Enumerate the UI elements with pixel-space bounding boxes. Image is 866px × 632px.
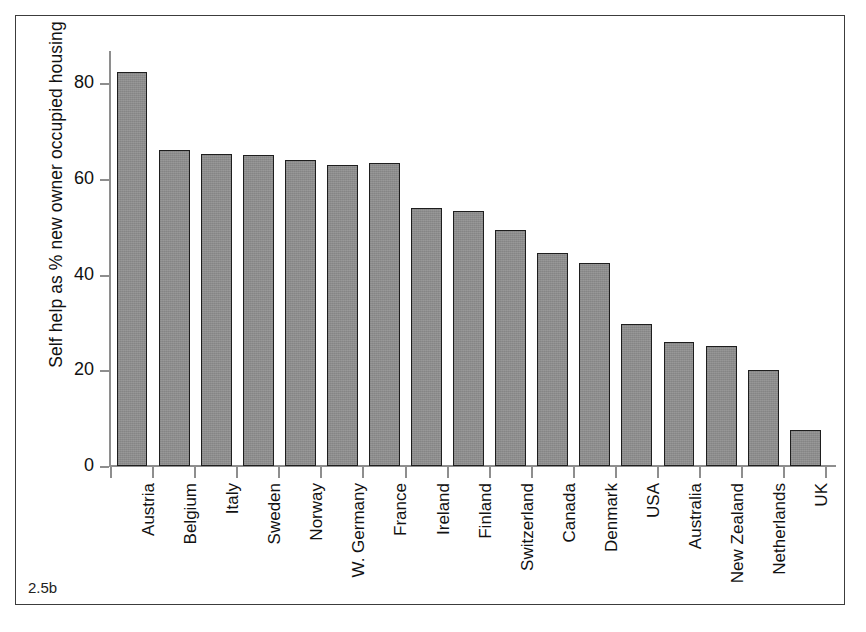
y-axis-tick: 60: [100, 179, 109, 181]
y-axis-tick-label: 0: [84, 455, 94, 476]
bar: [621, 324, 652, 466]
bar: [117, 72, 148, 466]
bar: [664, 342, 695, 466]
x-axis-tick-label: France: [391, 483, 411, 536]
x-axis-tick-label: UK: [812, 483, 832, 507]
bar: [369, 163, 400, 466]
y-axis-tick-label: 60: [74, 168, 94, 189]
x-axis-tick-label: Sweden: [265, 483, 285, 544]
x-axis-tick-label: Canada: [560, 483, 580, 543]
x-axis-tick: [362, 467, 364, 478]
x-axis-tick-label: Denmark: [602, 483, 622, 552]
x-axis-tick-label: Norway: [307, 483, 327, 541]
x-axis-tick: [405, 467, 407, 478]
y-axis-tick-label: 80: [74, 72, 94, 93]
bar: [495, 230, 526, 466]
bar: [790, 430, 821, 466]
figure-caption: 2.5b: [16, 573, 67, 604]
x-axis-tick-label: Italy: [223, 483, 243, 514]
y-axis-line: [109, 51, 111, 467]
figure-frame: Self help as % new owner occupied housin…: [15, 15, 845, 605]
y-axis-tick: 80: [100, 83, 109, 85]
bar: [579, 263, 610, 466]
x-axis-tick: [573, 467, 575, 478]
bar: [159, 150, 190, 466]
x-axis-tick: [531, 467, 533, 478]
x-axis-tick: [152, 467, 154, 478]
bar: [201, 154, 232, 466]
x-axis-tick: [657, 467, 659, 478]
x-axis-tick: [489, 467, 491, 478]
x-axis-tick: [320, 467, 322, 478]
x-axis-tick-label: Belgium: [181, 483, 201, 544]
y-axis-tick: 20: [100, 370, 109, 372]
x-axis-tick: [194, 467, 196, 478]
bar: [411, 208, 442, 466]
bar: [537, 253, 568, 466]
bar: [453, 211, 484, 466]
bar: [243, 155, 274, 466]
plot-area: 020406080 AustriaBelgiumItalySwedenNorwa…: [109, 51, 836, 467]
x-axis-tick: [278, 467, 280, 478]
x-axis-tick: [783, 467, 785, 478]
x-axis-tick-label: Austria: [139, 483, 159, 536]
x-axis-tick-label: W. Germany: [349, 483, 369, 577]
x-axis-tick: [699, 467, 701, 478]
x-axis-tick-label: Switzerland: [518, 483, 538, 571]
x-axis-tick-label: Australia: [686, 483, 706, 549]
bar: [748, 370, 779, 466]
y-axis-tick: 0: [100, 466, 109, 468]
y-axis-tick-label: 40: [74, 264, 94, 285]
x-axis-tick: [447, 467, 449, 478]
x-axis-tick: [110, 467, 112, 478]
x-axis-tick-label: Netherlands: [770, 483, 790, 575]
bar: [706, 346, 737, 466]
y-axis-tick: 40: [100, 275, 109, 277]
y-axis-title: Self help as % new owner occupied housin…: [46, 5, 67, 385]
x-axis-tick: [741, 467, 743, 478]
bar: [285, 160, 316, 466]
x-axis-tick-label: New Zealand: [728, 483, 748, 583]
x-axis-tick-label: Ireland: [434, 483, 454, 535]
y-axis-tick-label: 20: [74, 359, 94, 380]
x-axis-tick: [236, 467, 238, 478]
bar: [327, 165, 358, 466]
x-axis-tick: [615, 467, 617, 478]
x-axis-tick-label: Finland: [476, 483, 496, 539]
x-axis-tick: [825, 467, 827, 478]
x-axis-tick-label: USA: [644, 483, 664, 518]
